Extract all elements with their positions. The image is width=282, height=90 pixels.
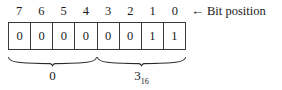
- bit-cell: 0: [53, 23, 75, 49]
- bit-cell: 1: [142, 23, 164, 49]
- group-label-value: 0: [49, 68, 56, 83]
- bit-cell: 0: [98, 23, 120, 49]
- group-label-subscript: 16: [141, 77, 149, 86]
- bit-cell: 0: [120, 23, 142, 49]
- bit-cell-row: 0 0 0 0 0 0 1 1: [8, 22, 186, 50]
- bit-field-diagram: 7 6 5 4 3 2 1 0 ←Bit position 0 0 0 0 0 …: [0, 0, 282, 90]
- bit-position-caption: ←Bit position: [191, 2, 266, 20]
- group-label-low-nibble: 316: [97, 66, 186, 86]
- bit-cell: 0: [31, 23, 53, 49]
- bit-cell: 0: [75, 23, 97, 49]
- bit-position-label: 5: [53, 2, 75, 20]
- bit-cell: 1: [164, 23, 185, 49]
- bit-cell: 0: [9, 23, 31, 49]
- bit-position-label: 3: [97, 2, 119, 20]
- bit-position-row: 7 6 5 4 3 2 1 0: [8, 2, 186, 20]
- bit-position-label: 4: [75, 2, 97, 20]
- bit-position-label: 0: [164, 2, 186, 20]
- bit-position-label: 2: [119, 2, 141, 20]
- bit-position-label: 1: [142, 2, 164, 20]
- left-arrow-icon: ←: [191, 2, 204, 20]
- bit-position-caption-text: Bit position: [207, 4, 266, 18]
- bit-position-label: 6: [30, 2, 52, 20]
- group-label-high-nibble: 0: [8, 66, 97, 86]
- bit-position-label: 7: [8, 2, 30, 20]
